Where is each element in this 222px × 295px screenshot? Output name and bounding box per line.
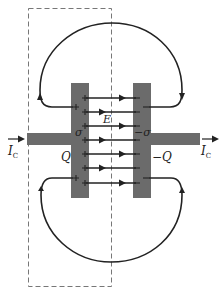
charge-left-label: Q xyxy=(61,151,71,163)
current-in-arrow xyxy=(8,136,25,143)
field-label: E xyxy=(103,114,111,125)
sigma-left-label: σ xyxy=(75,127,83,138)
sigma-right-label: −σ xyxy=(134,127,151,138)
dashed-gaussian-surface xyxy=(29,9,112,287)
capacitor-diagram xyxy=(0,0,222,295)
current-out-arrow xyxy=(202,136,219,143)
lower-loop-arrow-left xyxy=(38,186,44,191)
current-out-label: IC xyxy=(201,145,211,160)
current-in-label: IC xyxy=(8,145,18,160)
right-wire xyxy=(150,133,200,145)
lower-loop-arrow-right xyxy=(179,187,185,193)
upper-loop-arrow-left xyxy=(37,93,43,100)
upper-loop-arrow-right xyxy=(179,93,185,100)
left-wire xyxy=(27,133,73,145)
charge-right-label: −Q xyxy=(152,151,172,163)
